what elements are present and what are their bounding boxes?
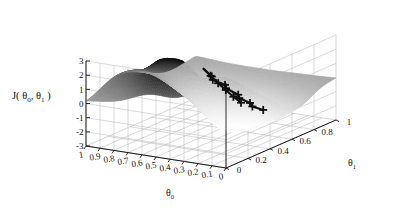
y-axis-name: θ1 bbox=[348, 157, 356, 170]
z-axis-label: J( θ0, θ1 ) bbox=[12, 90, 51, 104]
label-layer: J( θ0, θ1 ) θ0 θ1 bbox=[0, 0, 418, 210]
surface-plot-figure: 3210-1-2-310.90.80.70.60.50.40.30.20.100… bbox=[0, 0, 418, 210]
x-axis-name: θ0 bbox=[166, 187, 174, 200]
